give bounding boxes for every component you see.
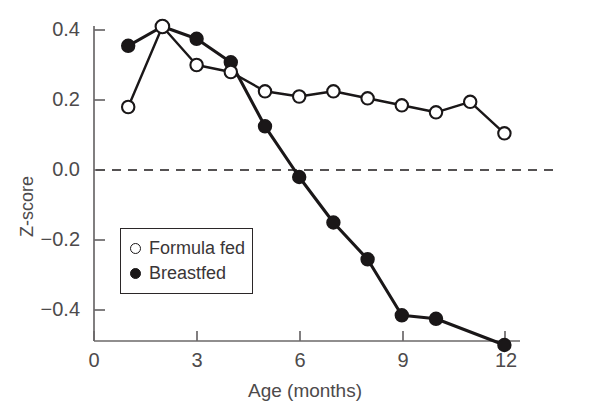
open-circle-icon xyxy=(130,243,141,254)
y-tick-label-0: 0.4 xyxy=(18,19,80,39)
y-axis-title: Z-score xyxy=(18,137,36,237)
x-tick-label-1: 3 xyxy=(177,350,217,370)
formula-fed-markers xyxy=(122,20,511,140)
x-tick-label-3: 9 xyxy=(383,350,423,370)
legend-item-formula-fed: Formula fed xyxy=(130,237,245,259)
chart-legend: Formula fed Breastfed xyxy=(120,228,253,294)
legend-label-formula-fed: Formula fed xyxy=(149,239,245,257)
breastfed-line xyxy=(128,27,504,346)
formula-fed-line xyxy=(128,27,504,134)
legend-item-breastfed: Breastfed xyxy=(130,262,226,284)
x-tick-label-2: 6 xyxy=(280,350,320,370)
y-tick-label-1: 0.2 xyxy=(18,89,80,109)
y-tick-label-4: −0.4 xyxy=(12,299,80,319)
breastfed-markers xyxy=(122,20,511,351)
chart-figure: 0.4 0.2 0.0 −0.2 −0.4 0 3 6 9 12 Z-score… xyxy=(0,0,606,420)
legend-label-breastfed: Breastfed xyxy=(149,264,226,282)
x-tick-label-4: 12 xyxy=(484,350,528,370)
x-axis-title: Age (months) xyxy=(200,381,410,400)
x-tick-label-0: 0 xyxy=(74,350,114,370)
filled-circle-icon xyxy=(130,268,141,279)
x-axis-ticks xyxy=(94,331,505,341)
